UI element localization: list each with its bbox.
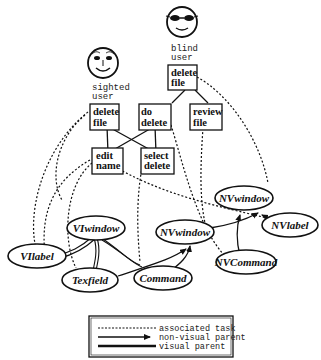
svg-text:NVwindow: NVwindow — [218, 192, 270, 204]
sighted-user-label-2: user — [92, 92, 114, 102]
widget-vilabel[interactable]: VIlabel — [8, 244, 66, 268]
task-widget-diagram: sighted user blind user delete file dele… — [0, 0, 321, 360]
task-box-delete-file-sighted[interactable]: delete file — [90, 104, 120, 130]
blind-user-label-2: user — [171, 53, 193, 63]
task-box-select-delete[interactable]: select delete — [141, 148, 174, 174]
svg-text:file: file — [171, 77, 185, 88]
svg-text:NVlabel: NVlabel — [270, 219, 309, 231]
task-box-delete-file-blind[interactable]: delete file — [168, 65, 198, 90]
svg-text:delete: delete — [141, 117, 168, 128]
widget-nvwindow-top[interactable]: NVwindow — [215, 186, 273, 210]
svg-text:do: do — [141, 106, 152, 117]
blind-user-face-icon — [166, 7, 198, 37]
svg-text:Texfield: Texfield — [72, 274, 109, 286]
task-box-edit-name[interactable]: edit name — [92, 148, 123, 174]
legend: associated task non-visual parent visual… — [89, 316, 246, 357]
widget-command[interactable]: Command — [134, 266, 192, 290]
svg-text:VIwindow: VIwindow — [73, 222, 120, 234]
svg-text:delete: delete — [144, 160, 171, 171]
widget-nvlabel[interactable]: NVlabel — [262, 213, 318, 237]
widget-nvcommand[interactable]: NVCommand — [214, 250, 278, 274]
svg-text:name: name — [96, 160, 121, 171]
svg-text:VIlabel: VIlabel — [20, 250, 55, 262]
svg-text:NVCommand: NVCommand — [214, 256, 278, 268]
legend-visual-parent: visual parent — [159, 342, 225, 352]
sighted-user-face-icon — [88, 48, 118, 78]
svg-text:NVwindow: NVwindow — [159, 226, 211, 238]
widget-viwindow[interactable]: VIwindow — [67, 216, 125, 240]
task-box-do-delete[interactable]: do delete — [139, 104, 171, 130]
svg-text:delete: delete — [93, 106, 120, 117]
svg-text:file: file — [193, 117, 207, 128]
task-box-review-file[interactable]: review file — [190, 104, 223, 130]
svg-text:file: file — [93, 117, 107, 128]
svg-text:Command: Command — [139, 272, 187, 284]
widget-texfield[interactable]: Texfield — [62, 268, 118, 292]
widget-nvwindow-child[interactable]: NVwindow — [156, 220, 214, 244]
svg-text:review: review — [193, 106, 223, 117]
